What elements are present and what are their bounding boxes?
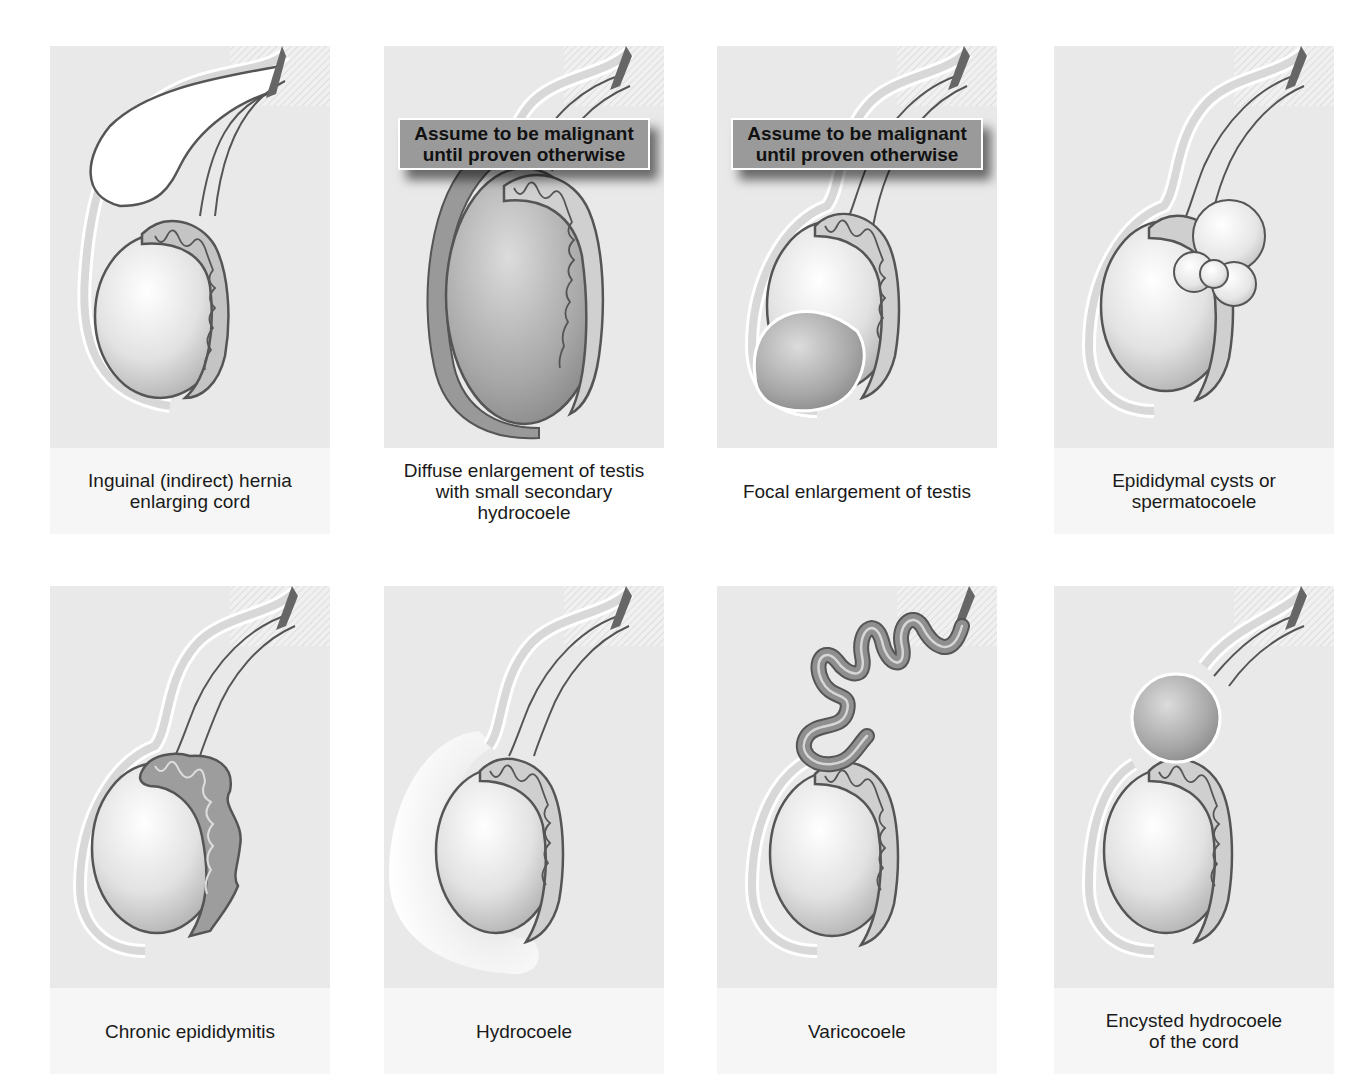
illustration-encysted-hydrocoele: [1054, 586, 1334, 988]
malignancy-warning-box: Assume to be malignant until proven othe…: [731, 118, 983, 170]
testis-diagram-icon: [50, 586, 330, 988]
testis-diagram-icon: [717, 586, 997, 988]
testis-diagram-icon: [1054, 586, 1334, 988]
caption: Epididymal cysts or spermatocoele: [1054, 448, 1334, 534]
testis-diagram-icon: [717, 46, 997, 448]
illustration-focal-enlargement: Assume to be malignant until proven othe…: [717, 46, 997, 448]
caption: Encysted hydrocoele of the cord: [1054, 988, 1334, 1074]
caption: Focal enlargement of testis: [717, 448, 997, 534]
illustration-epididymal-cysts: [1054, 46, 1334, 448]
illustration-varicocoele: [717, 586, 997, 988]
illustration-chronic-epididymitis: [50, 586, 330, 988]
testis-diagram-icon: [384, 46, 664, 448]
testis-diagram-icon: [384, 586, 664, 988]
malignancy-warning-box: Assume to be malignant until proven othe…: [398, 118, 650, 170]
illustration-inguinal-hernia: [50, 46, 330, 448]
caption: Varicocoele: [717, 988, 997, 1074]
testis-diagram-icon: [1054, 46, 1334, 448]
illustration-diffuse-enlargement: Assume to be malignant until proven othe…: [384, 46, 664, 448]
illustration-hydrocoele: [384, 586, 664, 988]
caption: Hydrocoele: [384, 988, 664, 1074]
caption: Diffuse enlargement of testis with small…: [384, 448, 664, 534]
caption: Chronic epididymitis: [50, 988, 330, 1074]
caption: Inguinal (indirect) hernia enlarging cor…: [50, 448, 330, 534]
testis-diagram-icon: [50, 46, 330, 448]
